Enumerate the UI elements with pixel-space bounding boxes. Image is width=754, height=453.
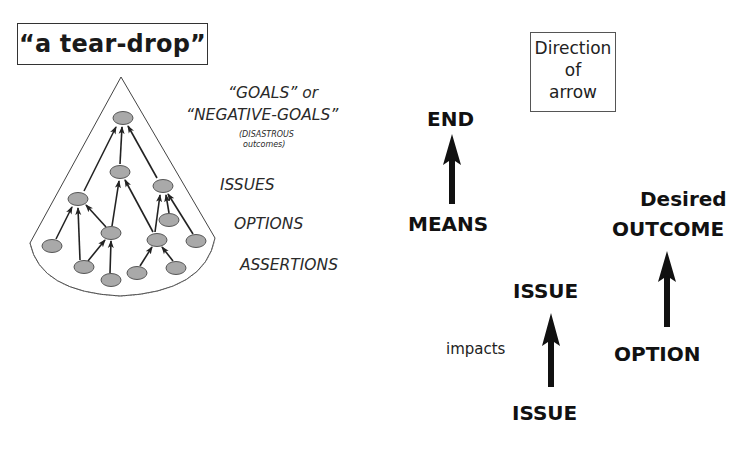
goals-label: “GOALS” or [228,84,318,102]
disastrous-label: (DISASTROUS [239,130,294,139]
direction-line2: of [531,59,615,81]
issues-level-label: ISSUES [220,176,275,194]
means-to-end-arrow [443,134,461,204]
assertions-level-label: ASSERTIONS [240,256,338,274]
impacts-label: impacts [446,340,505,358]
outcomes-label: outcomes) [243,140,285,149]
assertion-node [42,240,62,253]
issue-bottom-label: ISSUE [512,401,577,425]
option-node [159,214,179,227]
direction-line3: arrow [531,81,615,103]
end-label: END [427,107,474,131]
issue-node [110,166,130,179]
negative-goals-label: “NEGATIVE-GOALS” [186,106,338,124]
goal-node [113,112,133,125]
issue-node [68,193,88,206]
direction-of-arrow-box: Direction of arrow [530,32,616,112]
option-label: OPTION [614,342,700,366]
option-node [101,227,121,240]
assertion-node [166,262,186,275]
direction-line1: Direction [531,37,615,59]
desired-label: Desired [640,187,727,211]
assertion-node [127,267,147,280]
assertion-node [101,274,121,287]
issue-impacts-issue-arrow [542,313,560,387]
outcome-label: OUTCOME [612,217,724,241]
option-node [147,234,167,247]
issue-node [153,180,173,193]
options-level-label: OPTIONS [234,215,303,233]
tree-nodes [42,112,206,287]
option-node [186,235,206,248]
assertion-node [74,261,94,274]
issue-top-label: ISSUE [513,279,578,303]
means-label: MEANS [408,212,488,236]
option-to-outcome-arrow [658,251,676,327]
